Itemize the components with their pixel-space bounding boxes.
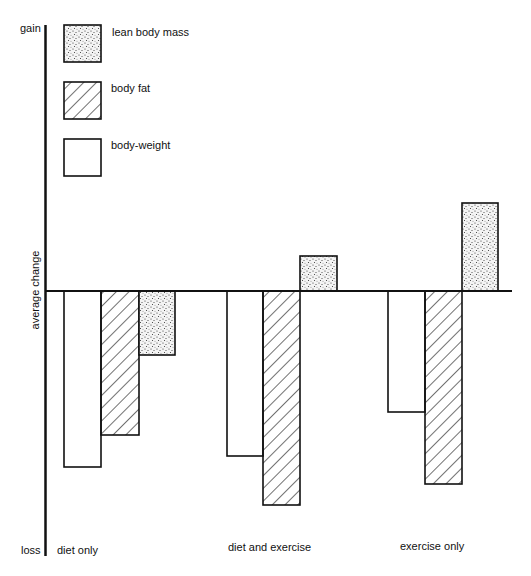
category-label-diet-only: diet only bbox=[57, 544, 98, 556]
legend: lean body mass body fat body-weight bbox=[64, 25, 190, 176]
bar-group-diet-only bbox=[64, 291, 175, 467]
bar-body-fat bbox=[263, 291, 300, 505]
category-label-diet-and-exercise: diet and exercise bbox=[228, 541, 311, 553]
legend-swatch-lean-body-mass bbox=[64, 25, 101, 62]
legend-label-body-weight: body-weight bbox=[111, 139, 170, 151]
legend-label-body-fat: body fat bbox=[111, 82, 150, 94]
bar-body-fat bbox=[101, 291, 139, 435]
category-label-exercise-only: exercise only bbox=[400, 540, 465, 552]
bar-group-exercise-only bbox=[388, 203, 498, 484]
gain-label: gain bbox=[20, 22, 41, 34]
legend-label-lean-body-mass: lean body mass bbox=[112, 26, 190, 38]
y-axis-label: average change bbox=[29, 251, 41, 330]
bar-body-weight bbox=[227, 291, 263, 456]
bar-lean-body-mass bbox=[300, 256, 337, 291]
bar-lean-body-mass bbox=[462, 203, 498, 291]
bar-group-diet-and-exercise bbox=[227, 256, 337, 505]
legend-swatch-body-fat bbox=[64, 82, 101, 119]
bar-lean-body-mass bbox=[139, 291, 175, 355]
legend-swatch-body-weight bbox=[64, 139, 101, 176]
bar-body-fat bbox=[425, 291, 462, 484]
loss-label: loss bbox=[21, 544, 41, 556]
bar-body-weight bbox=[64, 291, 101, 467]
chart: gain loss average change lean body mass … bbox=[0, 0, 531, 576]
bar-body-weight bbox=[388, 291, 425, 412]
